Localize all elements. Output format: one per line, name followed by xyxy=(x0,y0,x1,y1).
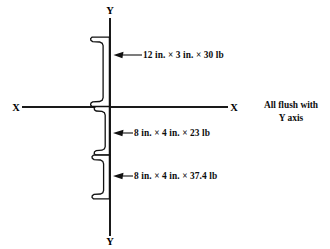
callout-channel-bottom: 8 in. × 4 in. × 37.4 lb xyxy=(134,171,217,182)
channel-top-outline xyxy=(91,37,110,106)
section-diagram: Y Y X X xyxy=(0,0,330,249)
flush-note-line-2: Y axis xyxy=(255,112,327,125)
channel-middle-outline xyxy=(94,107,109,155)
callout-channel-top: 12 in. × 3 in. × 30 lb xyxy=(143,50,224,61)
x-axis-right-label: X xyxy=(230,102,238,113)
arrowhead-channel-bottom xyxy=(113,173,124,179)
y-axis-top-label: Y xyxy=(106,5,114,16)
flush-note: All flush with Y axis xyxy=(255,99,327,124)
figure-root: Y Y X X 12 in. × 3 in. × 30 lb 8 in. × 4… xyxy=(0,0,330,249)
y-axis-bottom-label: Y xyxy=(106,236,114,247)
arrowhead-channel-top xyxy=(114,52,124,58)
callout-channel-middle: 8 in. × 4 in. × 23 lb xyxy=(134,128,210,139)
x-axis-left-label: X xyxy=(12,102,20,113)
arrowhead-channel-middle xyxy=(113,130,124,136)
flush-note-line-1: All flush with xyxy=(255,99,327,112)
channel-bottom-outline xyxy=(92,155,109,199)
